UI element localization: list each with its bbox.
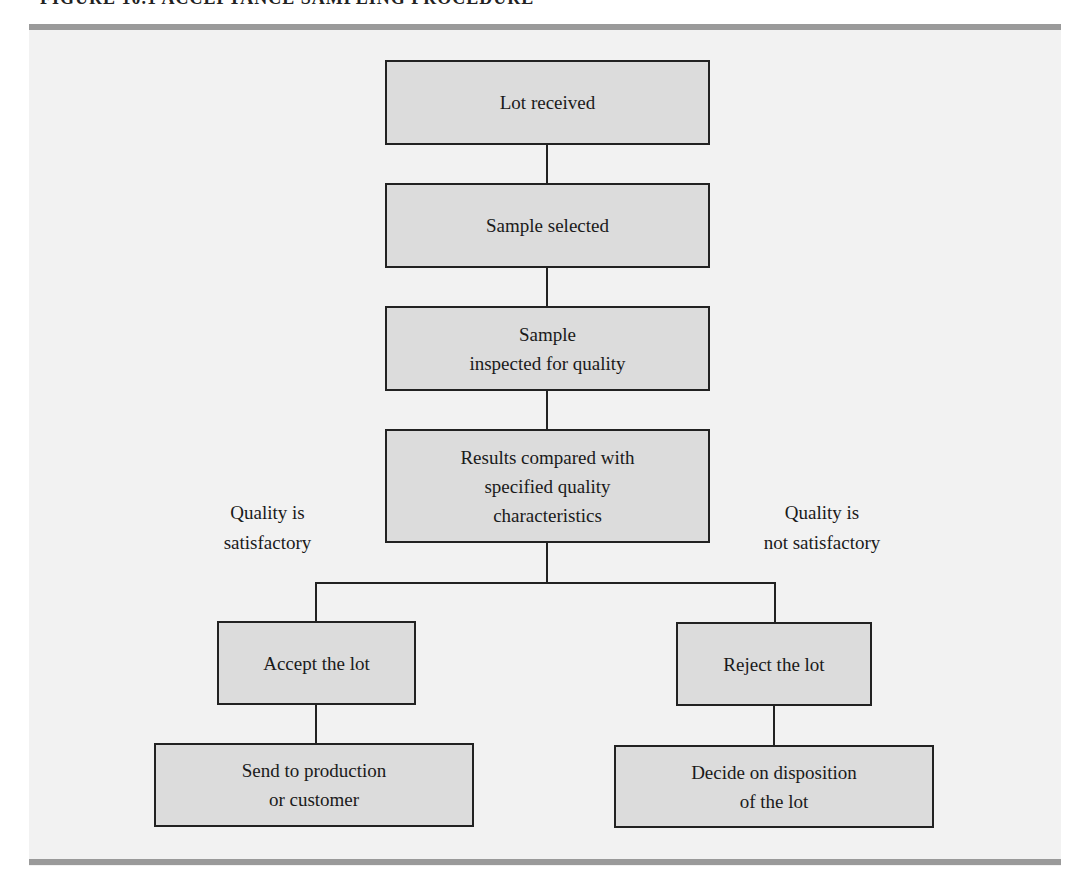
bottom-rule — [29, 859, 1061, 865]
condition-satisfactory: Quality is satisfactory — [205, 498, 330, 558]
step-accept-lot: Accept the lot — [217, 621, 416, 705]
connector-to-accept — [315, 582, 317, 622]
step-lot-received: Lot received — [385, 60, 710, 145]
connector-to-reject — [774, 582, 776, 623]
connector-accept-send — [315, 705, 317, 744]
condition-not-satisfactory: Quality is not satisfactory — [742, 498, 902, 558]
connector-1-2 — [546, 145, 548, 184]
step-decide-disposition: Decide on disposition of the lot — [614, 745, 934, 828]
top-rule — [29, 24, 1061, 30]
connector-3-4 — [546, 391, 548, 430]
step-send-to-production: Send to production or customer — [154, 743, 474, 827]
connector-4-split — [546, 543, 548, 584]
figure-caption: FIGURE 10.1 ACCEPTANCE SAMPLING PROCEDUR… — [40, 0, 534, 9]
connector-reject-decide — [773, 706, 775, 746]
connector-2-3 — [546, 268, 548, 307]
branch-connector — [315, 582, 776, 584]
step-results-compared: Results compared with specified quality … — [385, 429, 710, 543]
step-sample-selected: Sample selected — [385, 183, 710, 268]
step-reject-lot: Reject the lot — [676, 622, 872, 706]
step-sample-inspected: Sample inspected for quality — [385, 306, 710, 391]
